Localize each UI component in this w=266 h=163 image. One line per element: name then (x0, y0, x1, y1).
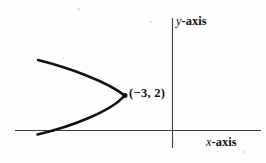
x-axis-word: axis (216, 135, 237, 149)
scan-speck (77, 7, 80, 10)
y-axis-word: axis (186, 14, 207, 28)
parabola-figure: y-axis x-axis (−3, 2) (0, 0, 266, 163)
scan-speck (243, 151, 245, 153)
scan-speck (150, 21, 153, 24)
parabola-curve (38, 60, 125, 135)
y-axis-label: y-axis (176, 15, 207, 28)
vertex-coordinate-label: (−3, 2) (129, 87, 165, 100)
scan-speck (62, 57, 64, 59)
x-axis-label: x-axis (206, 136, 237, 149)
vertex-point-marker (123, 93, 128, 98)
